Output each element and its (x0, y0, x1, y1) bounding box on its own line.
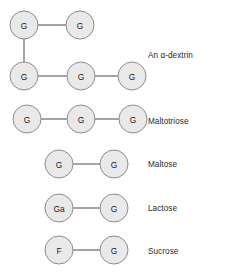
diagram-canvas: GGGGGGGGGGGaGFG (0, 0, 225, 277)
molecule-group-lactose: GaG (45, 194, 128, 222)
carbohydrate-structures-diagram: GGGGGGGGGGGaGFG An α-dextrinMaltotrioseM… (0, 0, 225, 277)
sugar-unit-label: Ga (53, 204, 65, 214)
molecule-group-sucrose: FG (45, 236, 128, 264)
molecule-group-maltose: GG (45, 150, 128, 178)
molecule-label-maltotriose: Maltotriose (148, 118, 189, 126)
molecule-group-alpha-dextrin: GGGGG (10, 11, 146, 90)
molecule-label-alpha-dextrin: An α-dextrin (148, 52, 193, 60)
molecule-label-sucrose: Sucrose (148, 248, 178, 256)
molecule-group-maltotriose: GGG (13, 105, 147, 133)
sugar-unit-label: G (130, 115, 137, 125)
sugar-unit-label: G (77, 21, 84, 31)
sugar-unit-label: G (129, 72, 136, 82)
sugar-unit-label: G (111, 160, 118, 170)
molecule-label-lactose: Lactose (148, 205, 177, 213)
sugar-unit-label: G (24, 115, 31, 125)
sugar-unit-label: G (21, 72, 28, 82)
molecule-label-maltose: Maltose (148, 161, 177, 169)
sugar-unit-label: F (56, 246, 61, 256)
sugar-unit-label: G (56, 160, 63, 170)
sugar-unit-label: G (111, 246, 118, 256)
sugar-unit-label: G (111, 204, 118, 214)
sugar-unit-label: G (78, 115, 85, 125)
sugar-unit-label: G (21, 21, 28, 31)
sugar-unit-label: G (78, 72, 85, 82)
